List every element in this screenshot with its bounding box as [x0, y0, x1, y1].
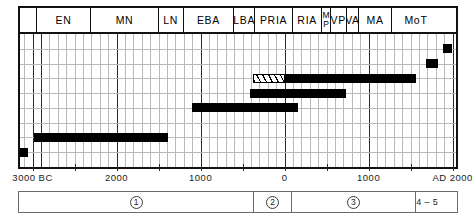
- period-header-vp: VP: [331, 8, 347, 32]
- axis-tick: [117, 164, 118, 171]
- gridline-minor: [427, 34, 428, 167]
- phase-label: 1: [130, 196, 143, 209]
- gridline-minor: [83, 34, 84, 167]
- gridline-major: [369, 34, 370, 167]
- chart-frame: ENMNLNEBALBAPRIARIAMPVPVAMAMoT: [18, 6, 458, 169]
- gridline-minor: [268, 34, 269, 167]
- axis-tick: [411, 164, 412, 171]
- axis-tick: [33, 164, 34, 171]
- gridline-minor: [402, 34, 403, 167]
- gridline-minor: [343, 34, 344, 167]
- axis-tick: [369, 164, 370, 171]
- axis-tick-label: AD 2000: [432, 172, 472, 183]
- gridline-minor: [217, 34, 218, 167]
- timeline-bar: [253, 74, 285, 83]
- gridline-minor: [360, 34, 361, 167]
- axis-tick-label: 1000: [189, 172, 212, 183]
- timeline-bar: [443, 44, 452, 53]
- axis-tick-label: 0: [282, 172, 288, 183]
- gridline-minor: [226, 34, 227, 167]
- timeline-bar: [426, 59, 439, 68]
- gridline-horizontal: [20, 123, 456, 124]
- gridline-minor: [234, 34, 235, 167]
- phase-label: 4 – 5: [416, 197, 438, 207]
- gridline-minor: [327, 34, 328, 167]
- period-header-mn: MN: [91, 8, 158, 32]
- axis-tick-label: 1000: [357, 172, 380, 183]
- gridline-minor: [310, 34, 311, 167]
- gridline-minor: [209, 34, 210, 167]
- period-header-lba: LBA: [234, 8, 255, 32]
- gridline-minor: [150, 34, 151, 167]
- period-header-ria: RIA: [293, 8, 322, 32]
- period-header-label: EBA: [197, 15, 220, 26]
- gridline-horizontal: [20, 152, 456, 153]
- phase-cell-2: 2: [254, 192, 292, 212]
- axis-tick-label: 2000: [105, 172, 128, 183]
- axis-tick: [75, 164, 76, 171]
- gridline-horizontal: [20, 93, 456, 94]
- gridline-minor: [159, 34, 160, 167]
- gridline-horizontal: [20, 49, 456, 50]
- gridline-minor: [419, 34, 420, 167]
- gridline-major: [117, 34, 118, 167]
- timeline-bar: [250, 89, 346, 98]
- period-header-label: LN: [163, 15, 178, 26]
- x-axis-labels: 3000 BC2000100001000AD 2000: [0, 172, 466, 186]
- gridline-horizontal: [20, 64, 456, 65]
- axis-tick: [243, 164, 244, 171]
- gridline-minor: [377, 34, 378, 167]
- phase-cell-45: 4 – 5: [416, 192, 440, 212]
- period-header-label: P: [323, 20, 329, 29]
- gridline-minor: [436, 34, 437, 167]
- period-header-label: EN: [56, 15, 72, 26]
- period-header-va: VA: [347, 8, 360, 32]
- gridline-minor: [394, 34, 395, 167]
- period-header-blank: [20, 8, 37, 32]
- period-header-label: LBA: [234, 15, 255, 26]
- gridline-major: [33, 34, 34, 167]
- gridline-major: [285, 34, 286, 167]
- period-header-label: RIA: [297, 15, 317, 26]
- gridline-minor: [318, 34, 319, 167]
- gridline-minor: [167, 34, 168, 167]
- phase-cell-1: 1: [19, 192, 254, 212]
- period-header-label: PRIA: [260, 15, 287, 26]
- plot-area: [20, 34, 456, 167]
- axis-tick: [453, 164, 454, 171]
- timeline-bar: [20, 148, 28, 157]
- gridline-minor: [100, 34, 101, 167]
- period-header-eba: EBA: [184, 8, 234, 32]
- timeline-bar: [192, 103, 298, 112]
- gridline-minor: [385, 34, 386, 167]
- period-header-en: EN: [37, 8, 92, 32]
- phase-label: 3: [347, 196, 360, 209]
- gridline-minor: [259, 34, 260, 167]
- gridline-minor: [444, 34, 445, 167]
- gridline-minor: [411, 34, 412, 167]
- period-header-label: MoT: [404, 15, 427, 26]
- period-header-ln: LN: [159, 8, 184, 32]
- gridline-minor: [192, 34, 193, 167]
- gridline-minor: [91, 34, 92, 167]
- phase-band: 1234 – 5: [18, 191, 458, 213]
- gridline-minor: [75, 34, 76, 167]
- period-header-ma: MA: [359, 8, 392, 32]
- axis-tick: [159, 164, 160, 171]
- gridline-minor: [175, 34, 176, 167]
- gridline-minor: [49, 34, 50, 167]
- gridline-minor: [335, 34, 336, 167]
- period-header-label: MN: [116, 15, 134, 26]
- period-header-mp: MP: [322, 8, 330, 32]
- gridline-minor: [301, 34, 302, 167]
- phase-cell-3: 3: [292, 192, 415, 212]
- gridline-major: [453, 34, 454, 167]
- axis-tick: [327, 164, 328, 171]
- period-header-label: VP: [331, 15, 346, 26]
- gridline-minor: [66, 34, 67, 167]
- period-header-band: ENMNLNEBALBAPRIARIAMPVPVAMAMoT: [20, 8, 456, 34]
- gridline-minor: [184, 34, 185, 167]
- gridline-minor: [251, 34, 252, 167]
- gridline-major: [41, 34, 42, 167]
